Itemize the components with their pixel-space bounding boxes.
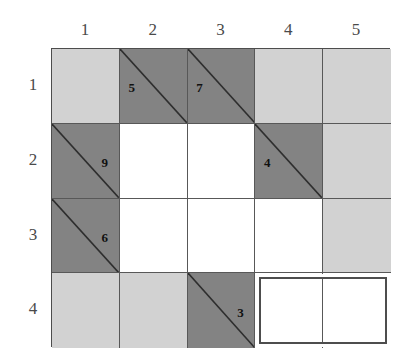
clue-number-r1c3: 7 <box>196 81 203 94</box>
grid-cell-r2c4[interactable]: 4 <box>255 124 323 199</box>
grid-cell-r2c1[interactable]: 9 <box>52 124 120 199</box>
grid-cell-r2c5[interactable] <box>323 124 391 199</box>
grid-cell-r1c1[interactable] <box>52 49 120 124</box>
clue-number-r4c3: 3 <box>237 306 244 319</box>
grid-cell-r3c4[interactable] <box>255 199 323 274</box>
clue-number-r3c1: 6 <box>102 231 109 244</box>
grid-cell-r1c2[interactable]: 5 <box>120 49 188 124</box>
grid-cell-r3c1[interactable]: 6 <box>52 199 120 274</box>
grid-puzzle-figure: 12345 1234 579463 <box>0 0 412 363</box>
grid-cell-r3c3[interactable] <box>188 199 256 274</box>
grid-cell-r4c4[interactable] <box>255 273 323 348</box>
column-label-2: 2 <box>119 20 187 40</box>
diagonal-divider-icon <box>52 124 119 198</box>
clue-number-r2c1: 9 <box>102 156 109 169</box>
column-label-5: 5 <box>322 20 390 40</box>
grid-cell-r1c3[interactable]: 7 <box>188 49 256 124</box>
grid-cell-r4c5[interactable] <box>323 273 391 348</box>
row-label-3: 3 <box>22 198 44 272</box>
diagonal-divider-icon <box>52 199 119 273</box>
row-label-1: 1 <box>22 48 44 122</box>
grid-cell-r3c5[interactable] <box>323 199 391 274</box>
grid-cell-r1c4[interactable] <box>255 49 323 124</box>
grid-cell-r3c2[interactable] <box>120 199 188 274</box>
column-label-3: 3 <box>187 20 255 40</box>
clue-number-r1c2: 5 <box>128 81 135 94</box>
grid-cell-r4c2[interactable] <box>120 273 188 348</box>
diagonal-divider-icon <box>188 273 255 348</box>
clue-number-r2c4: 4 <box>264 156 271 169</box>
grid-cell-r2c2[interactable] <box>120 124 188 199</box>
grid-cell-r2c3[interactable] <box>188 124 256 199</box>
column-label-4: 4 <box>254 20 322 40</box>
grid-cell-r4c1[interactable] <box>52 273 120 348</box>
row-label-4: 4 <box>22 272 44 346</box>
grid-cell-r4c3[interactable]: 3 <box>188 273 256 348</box>
grid-cell-r1c5[interactable] <box>323 49 391 124</box>
row-label-2: 2 <box>22 123 44 197</box>
column-label-1: 1 <box>51 20 119 40</box>
puzzle-grid[interactable]: 579463 <box>51 48 390 347</box>
